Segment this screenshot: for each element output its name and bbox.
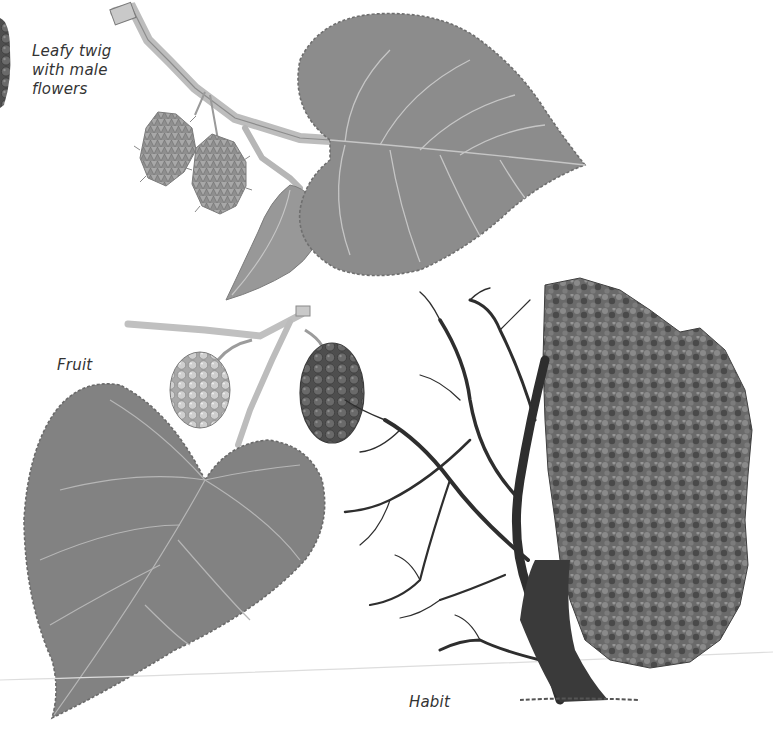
habit-tree-illustration xyxy=(345,278,752,702)
botanical-illustration xyxy=(0,0,773,733)
label-line: Leafy twig xyxy=(32,42,112,61)
label-habit: Habit xyxy=(409,693,450,712)
leafy-twig-illustration xyxy=(110,2,585,300)
unripe-mulberry xyxy=(170,352,230,428)
label-line: flowers xyxy=(32,80,112,99)
male-flower-catkin xyxy=(186,134,252,214)
ripe-mulberry xyxy=(300,343,364,443)
dark-fruit-fragment xyxy=(0,18,10,108)
label-leafy-twig: Leafy twig with male flowers xyxy=(32,42,112,99)
male-flower-catkin xyxy=(134,112,202,186)
label-line: with male xyxy=(32,61,112,80)
label-fruit: Fruit xyxy=(57,356,92,375)
